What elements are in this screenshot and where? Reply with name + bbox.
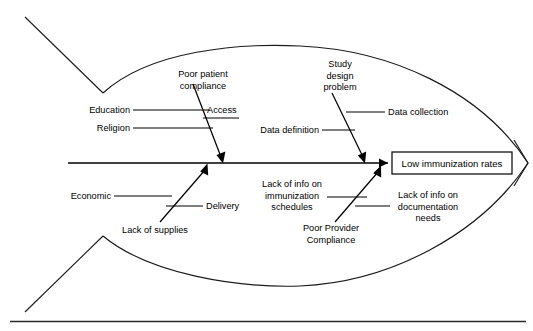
label-lack-info-documentation-line2: documentation (398, 202, 458, 212)
label-study-design-problem-line2: design (326, 71, 353, 81)
subcause-lack-info-immunization-schedules: Lack of info on immunization schedules (262, 179, 367, 212)
label-lack-info-immunization-line2: immunization (265, 191, 319, 201)
branch-study-design-problem: Study design problem (323, 59, 366, 164)
label-data-definition: Data definition (260, 125, 319, 135)
label-poor-provider-compliance-line1: Poor Provider (303, 223, 359, 233)
effect-box-group[interactable]: Low immunization rates (392, 152, 512, 174)
label-study-design-problem-line1: Study (328, 59, 352, 69)
tail-fin-upper (25, 17, 103, 93)
effect-box-label: Low immunization rates (402, 158, 503, 169)
branch-poor-provider-compliance: Poor Provider Compliance (303, 166, 381, 245)
label-lack-info-immunization-line1: Lack of info on (262, 179, 322, 189)
label-delivery: Delivery (206, 201, 240, 211)
subcause-religion: Religion (97, 123, 213, 133)
label-lack-info-documentation-line3: needs (415, 213, 440, 223)
fishbone-diagram-canvas: Low immunization rates Poor patient comp… (0, 0, 533, 331)
label-lack-info-immunization-line3: schedules (271, 202, 313, 212)
subcause-access: Access (203, 105, 239, 118)
branch-lack-of-supplies: Lack of supplies (122, 164, 208, 236)
branch-line-poor-patient-compliance (193, 84, 221, 157)
label-religion: Religion (97, 123, 130, 133)
label-poor-patient-compliance-line1: Poor patient (178, 69, 228, 79)
subcause-education: Education (89, 105, 210, 115)
tail-fin-lower (25, 236, 103, 312)
branch-line-study-design-problem (332, 93, 363, 157)
label-poor-provider-compliance-line2: Compliance (307, 235, 356, 245)
branch-poor-patient-compliance: Poor patient compliance (178, 69, 228, 164)
label-data-collection: Data collection (388, 107, 448, 117)
label-education: Education (89, 105, 130, 115)
spine-group (68, 159, 388, 168)
label-study-design-problem-line3: problem (323, 82, 357, 92)
branch-arrow-poor-patient-compliance (217, 152, 226, 164)
subcause-data-definition: Data definition (260, 125, 355, 135)
label-lack-of-supplies: Lack of supplies (122, 225, 188, 235)
label-economic: Economic (71, 191, 112, 201)
fishbone-diagram-page: Low immunization rates Poor patient comp… (0, 0, 533, 331)
fish-body-upper-arc (103, 45, 528, 163)
label-poor-patient-compliance-line2: compliance (180, 81, 226, 91)
label-access: Access (207, 105, 237, 115)
subcause-data-collection: Data collection (346, 107, 448, 117)
subcause-economic: Economic (71, 191, 172, 201)
subcause-lack-info-documentation-needs: Lack of info on documentation needs (355, 190, 458, 223)
label-lack-info-documentation-line1: Lack of info on (398, 190, 458, 200)
branch-arrow-study-design-problem (358, 151, 366, 163)
